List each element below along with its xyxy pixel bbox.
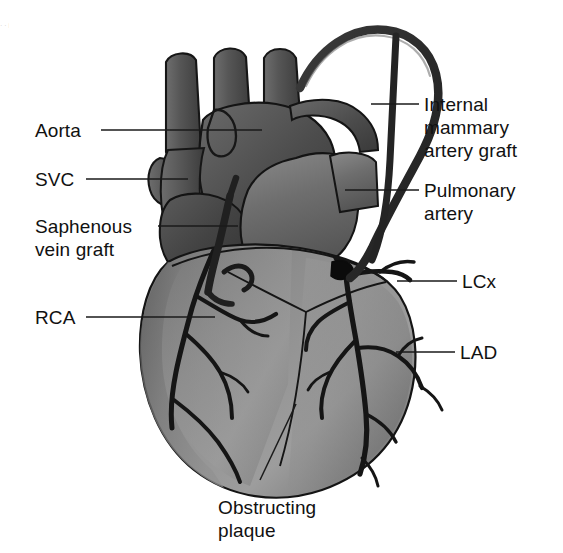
label-pulmonary-artery-line1: Pulmonary — [424, 179, 516, 202]
label-saphenous-vein-graft-line1: Saphenous — [35, 215, 132, 238]
label-lad: LAD — [460, 341, 497, 364]
label-internal-mammary-artery-graft-line3: artery graft — [424, 139, 517, 162]
scan-edge-artifact: · · i · · · i · · · i · · · — [0, 20, 9, 320]
label-pulmonary-artery-line2: artery — [424, 202, 473, 225]
ventricles-group — [140, 244, 416, 497]
label-rca: RCA — [35, 306, 75, 329]
anatomical-figure: Aorta SVC Saphenous vein graft RCA Inter… — [0, 0, 563, 553]
brachiocephalic-trunk — [166, 53, 201, 162]
label-svc: SVC — [35, 168, 74, 191]
label-internal-mammary-artery-graft-line1: Internal — [424, 93, 488, 116]
lad-branch-right-1c — [420, 386, 442, 410]
label-saphenous-vein-graft-line2: vein graft — [35, 238, 114, 261]
label-internal-mammary-artery-graft-line2: mammary — [424, 116, 509, 139]
label-lcx: LCx — [462, 270, 496, 293]
label-obstructing-plaque-line1: Obstructing — [218, 496, 316, 519]
label-aorta: Aorta — [35, 119, 81, 142]
label-obstructing-plaque-line2: plaque — [218, 519, 276, 542]
